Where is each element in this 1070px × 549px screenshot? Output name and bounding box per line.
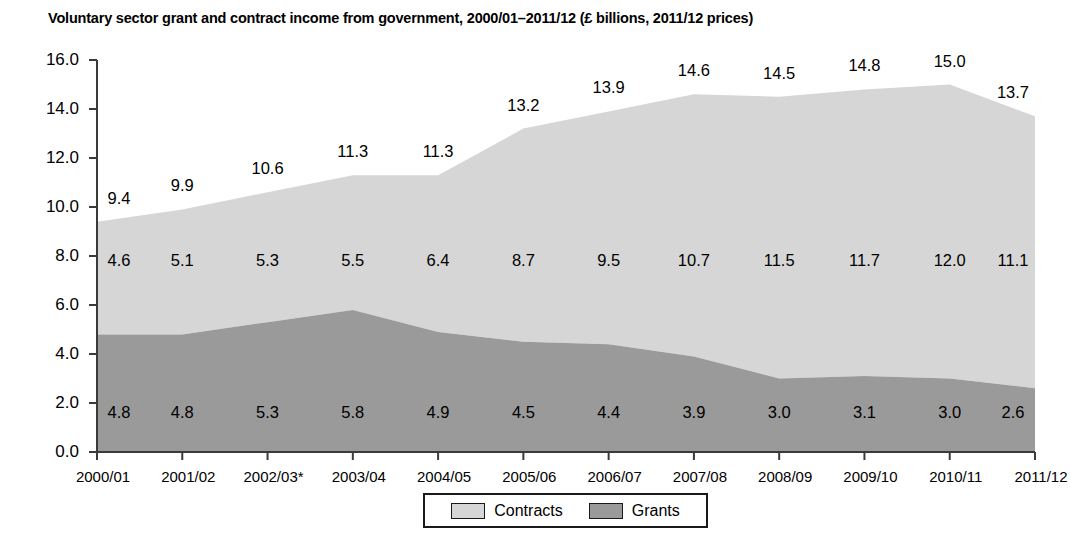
- y-axis-tick-label: 16.0: [9, 51, 79, 68]
- total-value-label: 9.9: [171, 177, 194, 194]
- x-axis-tick-label: 2001/02: [161, 469, 215, 484]
- grants-value-label: 3.0: [938, 404, 961, 421]
- total-value-label: 11.3: [337, 143, 368, 160]
- grants-value-label: 4.4: [597, 404, 620, 421]
- x-axis-tick-label: 2006/07: [588, 469, 642, 484]
- legend-label: Grants: [632, 503, 680, 519]
- grants-value-label: 4.8: [108, 404, 131, 421]
- y-axis-tick-label: 0.0: [9, 443, 79, 460]
- contracts-value-label: 5.3: [256, 252, 279, 269]
- contracts-value-label: 11.1: [998, 252, 1029, 269]
- total-value-label: 11.3: [423, 143, 454, 160]
- x-axis-tick-label: 2011/12: [1014, 469, 1067, 484]
- legend-item-contracts[interactable]: Contracts: [451, 503, 562, 519]
- grants-value-label: 3.0: [768, 404, 791, 421]
- grants-value-label: 3.9: [682, 404, 705, 421]
- y-axis-tick-label: 14.0: [9, 100, 79, 117]
- contracts-value-label: 12.0: [934, 252, 966, 269]
- total-value-label: 14.8: [848, 57, 880, 74]
- legend-swatch-icon: [451, 503, 485, 519]
- x-axis-tick-label: 2010/11: [929, 469, 982, 484]
- contracts-value-label: 5.5: [341, 252, 364, 269]
- x-axis-tick-label: 2003/04: [332, 469, 386, 484]
- x-axis-tick-label: 2000/01: [76, 469, 130, 484]
- total-value-label: 15.0: [934, 53, 966, 70]
- plot-area: [0, 0, 1070, 549]
- legend-swatch-icon: [589, 503, 623, 519]
- y-axis-tick-label: 6.0: [9, 296, 79, 313]
- legend-label: Contracts: [494, 503, 562, 519]
- grants-value-label: 5.8: [341, 404, 364, 421]
- y-axis-tick-label: 2.0: [9, 394, 79, 411]
- total-value-label: 9.4: [108, 190, 131, 207]
- x-axis-tick-label: 2002/03*: [244, 469, 304, 484]
- contracts-value-label: 8.7: [512, 252, 535, 269]
- total-value-label: 14.5: [763, 65, 795, 82]
- total-value-label: 10.6: [251, 160, 283, 177]
- grants-value-label: 4.9: [427, 404, 450, 421]
- legend-item-grants[interactable]: Grants: [589, 503, 680, 519]
- chart-container: Voluntary sector grant and contract inco…: [0, 0, 1070, 549]
- grants-value-label: 4.8: [171, 404, 194, 421]
- x-axis-tick-label: 2007/08: [673, 469, 727, 484]
- y-axis-tick-label: 10.0: [9, 198, 79, 215]
- y-axis-tick-label: 8.0: [9, 247, 79, 264]
- x-axis-tick-label: 2004/05: [417, 469, 471, 484]
- contracts-value-label: 6.4: [427, 252, 450, 269]
- grants-value-label: 5.3: [256, 404, 279, 421]
- chart-legend: ContractsGrants: [423, 493, 708, 528]
- y-axis-tick-label: 12.0: [9, 149, 79, 166]
- x-axis-tick-label: 2009/10: [843, 469, 897, 484]
- grants-value-label: 2.6: [1002, 404, 1025, 421]
- x-axis-tick-label: 2005/06: [502, 469, 556, 484]
- total-value-label: 13.7: [997, 84, 1029, 101]
- contracts-value-label: 5.1: [171, 252, 194, 269]
- contracts-value-label: 10.7: [678, 252, 710, 269]
- contracts-value-label: 4.6: [108, 252, 131, 269]
- x-axis-tick-label: 2008/09: [758, 469, 812, 484]
- contracts-value-label: 11.7: [849, 252, 880, 269]
- y-axis-tick-label: 4.0: [9, 345, 79, 362]
- total-value-label: 13.2: [507, 97, 539, 114]
- contracts-value-label: 9.5: [597, 252, 620, 269]
- total-value-label: 13.9: [593, 79, 625, 96]
- grants-value-label: 3.1: [853, 404, 876, 421]
- contracts-value-label: 11.5: [764, 252, 795, 269]
- grants-value-label: 4.5: [512, 404, 535, 421]
- total-value-label: 14.6: [678, 62, 710, 79]
